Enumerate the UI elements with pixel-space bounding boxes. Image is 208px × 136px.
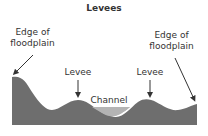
arrow-edge-right (175, 58, 194, 99)
ground-profile (12, 77, 197, 125)
levee-cross-section (0, 0, 208, 136)
arrow-edge-left (15, 55, 33, 73)
